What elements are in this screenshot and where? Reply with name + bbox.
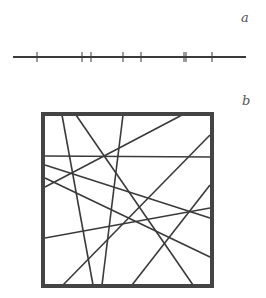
random-line-segment xyxy=(63,135,210,285)
panel-b-square-with-lines xyxy=(43,114,212,286)
random-line-segment xyxy=(132,185,210,285)
random-line-segment xyxy=(45,156,210,157)
panel-label-b: b xyxy=(242,94,250,107)
square-frame xyxy=(43,114,212,286)
random-line-segment xyxy=(45,165,210,218)
random-line-segment xyxy=(45,115,182,187)
panel-a-number-line xyxy=(13,52,246,62)
random-line-segment xyxy=(102,115,123,285)
diagram-canvas xyxy=(0,0,266,298)
panel-label-a: a xyxy=(241,11,249,24)
random-line-segment xyxy=(45,208,210,238)
